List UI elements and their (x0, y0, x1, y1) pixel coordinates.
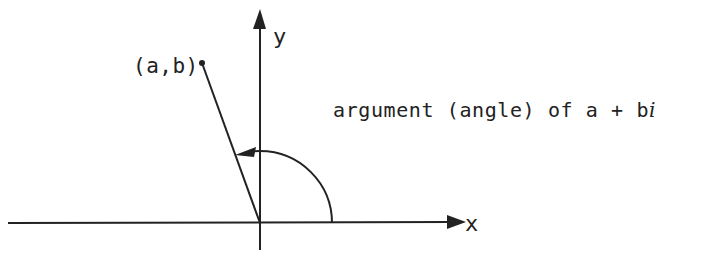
caption: argument (angle) of a + bi (333, 98, 656, 122)
point-dot-icon (199, 60, 205, 66)
arc-arrow-icon (235, 147, 256, 157)
point-label: (a,b) (133, 54, 199, 78)
complex-argument-diagram (0, 0, 720, 257)
y-axis-arrow-icon (253, 9, 266, 29)
imaginary-unit: i (649, 98, 656, 122)
caption-text: argument (angle) of a + b (333, 98, 649, 122)
x-axis (8, 222, 452, 223)
x-axis-arrow-icon (447, 215, 466, 229)
y-axis-label: y (273, 24, 286, 49)
x-axis-label: x (465, 211, 478, 236)
vector-line (202, 63, 260, 223)
